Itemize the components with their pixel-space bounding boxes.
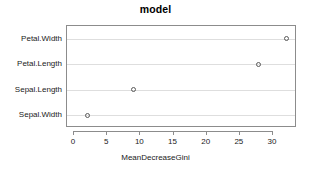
- x-axis-tick-label: 15: [168, 137, 177, 146]
- x-axis-tick-label: 10: [135, 137, 144, 146]
- x-axis-tick-label: 25: [234, 137, 243, 146]
- x-axis-tick: [139, 131, 140, 135]
- variable-importance-plot: model Petal.WidthPetal.LengthSepal.Lengt…: [0, 0, 311, 181]
- x-axis-tick: [239, 131, 240, 135]
- x-axis-tick-label: 20: [201, 137, 210, 146]
- x-axis-tick-label: 0: [71, 137, 75, 146]
- x-axis-tick: [272, 131, 273, 135]
- x-axis-tick: [173, 131, 174, 135]
- x-axis-tick-label: 5: [104, 137, 108, 146]
- x-axis-tick: [106, 131, 107, 135]
- x-axis-tick: [206, 131, 207, 135]
- x-axis-tick-label: 30: [268, 137, 277, 146]
- x-axis-tick: [73, 131, 74, 135]
- x-axis-title: MeanDecreaseGini: [0, 153, 311, 163]
